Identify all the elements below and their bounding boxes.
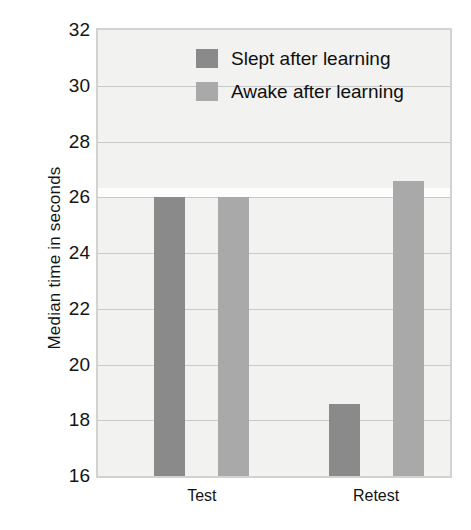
y-axis-tick-label: 32: [52, 20, 90, 39]
gridline: [98, 142, 450, 143]
legend-swatch-icon: [196, 82, 218, 101]
y-axis-tick-label: 26: [52, 187, 90, 206]
x-axis-tick-label: Test: [142, 487, 262, 505]
y-axis-tick-label: 28: [52, 132, 90, 151]
y-axis-tick-label: 30: [52, 76, 90, 95]
bar: [393, 181, 424, 476]
bar: [154, 197, 185, 476]
legend-item: Awake after learning: [196, 75, 446, 108]
bar: [218, 197, 249, 476]
bar: [329, 404, 360, 476]
legend-item-label: Slept after learning: [231, 48, 391, 70]
legend-item: Slept after learning: [196, 42, 446, 75]
y-axis-tick-label: 18: [52, 410, 90, 429]
y-axis-tick-labels: 161820222426283032: [44, 0, 90, 530]
bar-chart: Median time in seconds 16182022242628303…: [0, 0, 471, 530]
y-axis-tick-label: 20: [52, 355, 90, 374]
x-axis-tick-label: Retest: [316, 487, 436, 505]
legend-item-label: Awake after learning: [231, 81, 404, 103]
legend-swatch-icon: [196, 49, 218, 68]
y-axis-tick-label: 22: [52, 299, 90, 318]
chart-legend: Slept after learningAwake after learning: [196, 42, 446, 108]
y-axis-tick-label: 24: [52, 243, 90, 262]
y-axis-tick-label: 16: [52, 466, 90, 485]
